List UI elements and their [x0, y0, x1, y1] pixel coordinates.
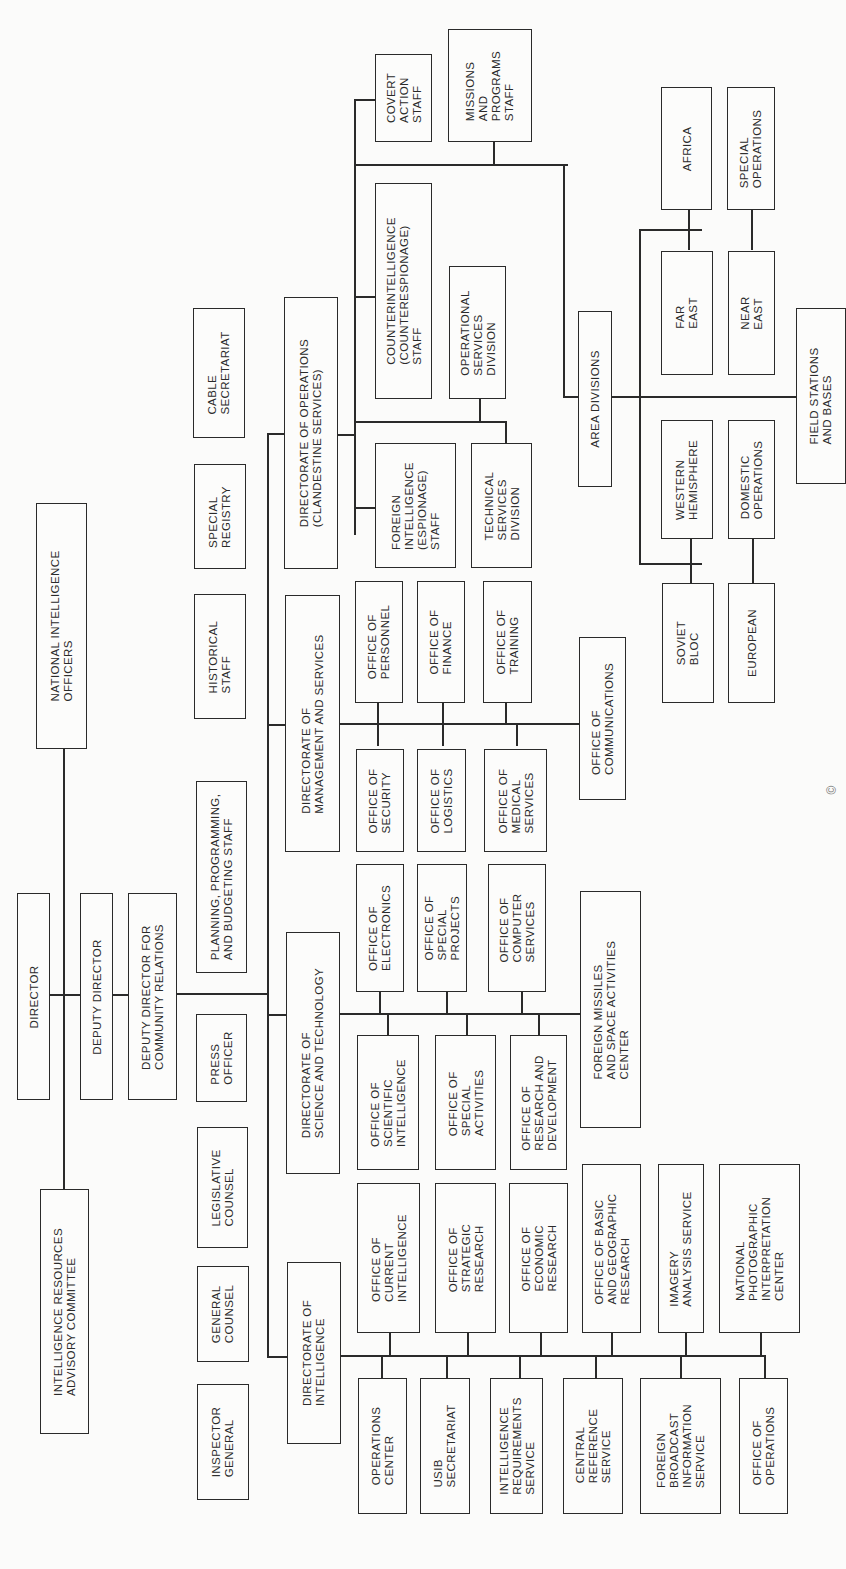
node-covert-action-staff: COVERT ACTION STAFF [375, 54, 432, 142]
connector [340, 723, 580, 725]
node-ddcr: DEPUTY DIRECTOR FOR COMMUNITY RELATIONS [128, 893, 177, 1100]
node-office-strategic-research: OFFICE OF STRATEGIC RESEARCH [435, 1183, 496, 1333]
connector [680, 1355, 682, 1378]
node-office-electronics: OFFICE OF ELECTRONICS [356, 864, 404, 992]
node-missions-programs-staff: MISSIONS AND PROGRAMS STAFF [448, 29, 532, 142]
node-office-medical-services: OFFICE OF MEDICAL SERVICES [484, 749, 547, 852]
node-npic: NATIONAL PHOTOGRAPHIC INTERPRETATION CEN… [719, 1164, 800, 1333]
node-special-operations: SPECIAL OPERATIONS [727, 87, 775, 210]
connector [354, 421, 506, 423]
node-far-east: FAR EAST [661, 251, 713, 375]
connector [267, 1014, 286, 1016]
node-area-divisions: AREA DIVISIONS [578, 311, 612, 487]
node-office-computer-services: OFFICE OF COMPUTER SERVICES [488, 864, 546, 992]
node-office-special-activities: OFFICE OF SPECIAL ACTIVITIES [435, 1035, 496, 1170]
connector [267, 724, 285, 726]
connector [760, 1332, 762, 1356]
node-directorate-intelligence: DIRECTORATE OF INTELLIGENCE [287, 1262, 341, 1444]
connector [595, 1355, 597, 1378]
connector [446, 991, 448, 1013]
node-directorate-science-technology: DIRECTORATE OF SCIENCE AND TECHNOLOGY [286, 932, 340, 1174]
connector [341, 1355, 764, 1357]
connector [354, 164, 356, 535]
node-operational-services-division: OPERATIONAL SERVICES DIVISION [449, 266, 506, 399]
node-fbis: FOREIGN BROADCAST INFORMATION SERVICE [640, 1378, 721, 1514]
node-office-of-operations: OFFICE OF OPERATIONS [739, 1378, 788, 1514]
connector [442, 702, 444, 746]
connector [538, 1013, 540, 1035]
connector [521, 991, 523, 1013]
connector [505, 702, 507, 723]
node-general-counsel: GENERAL COUNSEL [197, 1266, 249, 1362]
node-office-finance: OFFICE OF FINANCE [417, 581, 465, 703]
node-european: EUROPEAN [728, 583, 775, 703]
node-western-hemisphere: WESTERN HEMISPHERE [661, 420, 713, 539]
node-office-current-intelligence: OFFICE OF CURRENT INTELLIGENCE [357, 1183, 420, 1333]
node-directorate-operations: DIRECTORATE OF OPERATIONS (CLANDESTINE S… [284, 297, 338, 569]
connector [267, 1356, 287, 1358]
node-operations-center: OPERATIONS CENTER [358, 1378, 407, 1514]
node-africa: AFRICA [661, 87, 712, 210]
node-inspector-general: INSPECTOR GENERAL [197, 1384, 249, 1500]
connector [381, 1355, 383, 1378]
connector [685, 1332, 687, 1356]
node-soviet-bloc: SOVIET BLOC [662, 583, 714, 703]
node-office-economic-research: OFFICE OF ECONOMIC RESEARCH [509, 1183, 568, 1333]
connector [690, 538, 692, 583]
connector [112, 994, 128, 996]
connector [639, 229, 641, 564]
connector [354, 99, 356, 165]
connector [540, 1332, 542, 1356]
connector [466, 1013, 468, 1035]
connector [505, 421, 507, 443]
connector [63, 748, 65, 1189]
connector [379, 991, 381, 1013]
node-intelligence-requirements-service: INTELLIGENCE REQUIREMENTS SERVICE [490, 1378, 543, 1514]
node-office-training: OFFICE OF TRAINING [483, 581, 532, 703]
connector [467, 1332, 469, 1356]
node-directorate-management: DIRECTORATE OF MANAGEMENT AND SERVICES [285, 595, 340, 852]
connector [493, 141, 495, 164]
node-office-special-projects: OFFICE OF SPECIAL PROJECTS [417, 864, 467, 992]
node-special-registry: SPECIAL REGISTRY [194, 464, 246, 569]
connector [446, 1355, 448, 1378]
connector [49, 994, 80, 996]
connector [516, 723, 518, 746]
node-counterintelligence-staff: COUNTERINTELLIGENCE (COUNTERESPIONAGE) S… [375, 183, 432, 399]
connector [354, 507, 377, 509]
connector [639, 563, 702, 565]
connector [688, 209, 690, 250]
node-imagery-analysis-service: IMAGERY ANALYSIS SERVICE [658, 1164, 704, 1333]
connector [387, 1013, 389, 1035]
node-office-scientific-intelligence: OFFICE OF SCIENTIFIC INTELLIGENCE [357, 1035, 419, 1170]
node-field-stations-bases: FIELD STATIONS AND BASES [796, 308, 846, 484]
node-fmsac: FOREIGN MISSILES AND SPACE ACTIVITIES CE… [580, 891, 641, 1128]
node-cable-secretariat: CABLE SECRETARIAT [193, 308, 245, 438]
connector [177, 993, 268, 995]
node-deputy-director: DEPUTY DIRECTOR [80, 893, 113, 1100]
connector [752, 538, 754, 583]
node-press-officer: PRESS OFFICER [196, 1014, 247, 1102]
node-irac: INTELLIGENCE RESOURCES ADVISORY COMMITTE… [40, 1189, 89, 1434]
node-technical-services-division: TECHNICAL SERVICES DIVISION [471, 443, 532, 568]
node-near-east: NEAR EAST [728, 251, 775, 375]
connector [338, 434, 355, 436]
connector [267, 433, 285, 435]
node-central-reference-service: CENTRAL REFERENCE SERVICE [563, 1378, 623, 1514]
node-office-research-development: OFFICE OF RESEARCH AND DEVELOPMENT [510, 1035, 567, 1170]
node-historical-staff: HISTORICAL STAFF [194, 594, 246, 719]
node-foreign-intelligence-staff: FOREIGN INTELLIGENCE (ESPIONAGE) STAFF [375, 443, 456, 568]
connector [377, 702, 379, 746]
connector [764, 1355, 766, 1378]
node-usib-secretariat: USIB SECRETARIAT [420, 1378, 470, 1514]
node-office-communications: OFFICE OF COMMUNICATIONS [579, 637, 626, 800]
node-national-intelligence-officers: NATIONAL INTELLIGENCE OFFICERS [36, 503, 87, 749]
connector [389, 1332, 391, 1356]
connector [354, 164, 568, 166]
connector [751, 209, 753, 250]
node-office-security: OFFICE OF SECURITY [356, 749, 404, 852]
node-ppb-staff: PLANNING, PROGRAMMING, AND BUDGETING STA… [196, 781, 247, 973]
connector [267, 433, 269, 1357]
node-legislative-counsel: LEGISLATIVE COUNSEL [197, 1127, 248, 1248]
connector [563, 164, 565, 397]
